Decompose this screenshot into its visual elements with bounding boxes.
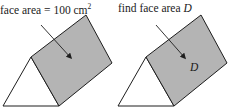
left-caption-exponent: 2 <box>88 2 92 11</box>
left-caption: face area = 100 cm2 <box>0 3 91 17</box>
left-caption-text: face area = 100 cm <box>0 4 88 16</box>
right-caption-variable: D <box>183 2 191 14</box>
right-caption-text: find face area <box>118 2 183 14</box>
right-caption: find face area D <box>118 3 192 15</box>
right-prism <box>118 15 227 106</box>
left-prism <box>3 15 112 106</box>
right-face-label: D <box>190 62 198 74</box>
